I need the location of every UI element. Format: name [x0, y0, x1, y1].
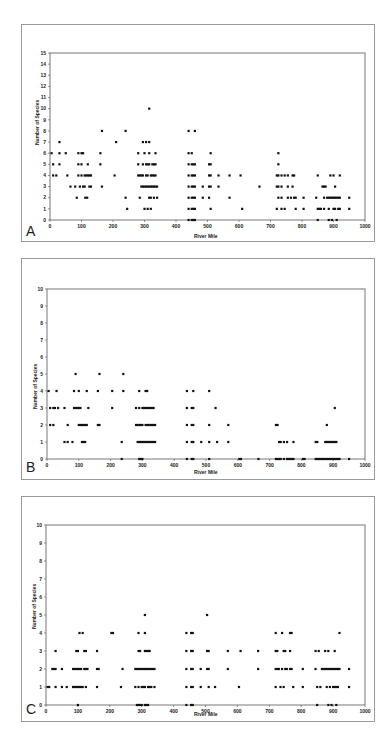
- data-point: [277, 152, 279, 154]
- data-point: [336, 219, 338, 221]
- data-point: [192, 458, 194, 460]
- data-point: [210, 163, 212, 165]
- data-point: [214, 407, 216, 409]
- x-axis-label-b: River Mile: [194, 469, 218, 475]
- data-point: [125, 130, 127, 132]
- data-point: [289, 650, 291, 652]
- x-tick-label: 1000: [359, 462, 370, 468]
- data-point: [339, 174, 341, 176]
- data-point: [58, 163, 60, 165]
- data-point: [257, 458, 259, 460]
- y-axis-label-c: Number of Species: [31, 584, 37, 629]
- data-point: [138, 390, 140, 392]
- data-point: [276, 650, 278, 652]
- data-point: [194, 208, 196, 210]
- data-point: [315, 197, 317, 199]
- data-point: [280, 441, 282, 443]
- x-tick-label: 100: [74, 708, 83, 714]
- data-point: [87, 163, 89, 165]
- data-point: [216, 441, 218, 443]
- data-point: [302, 668, 304, 670]
- data-point: [192, 632, 194, 634]
- y-tick-label: 10: [40, 105, 46, 111]
- scatter-plot-c: 0123456789100100200300400500600700800900…: [22, 497, 374, 721]
- data-point: [324, 650, 326, 652]
- data-point: [141, 424, 143, 426]
- data-point: [302, 686, 304, 688]
- data-point: [302, 208, 304, 210]
- data-point: [152, 407, 154, 409]
- panel-letter-a: A: [26, 223, 35, 239]
- x-tick-label: 700: [266, 223, 275, 229]
- data-point: [67, 441, 69, 443]
- data-point: [191, 152, 193, 154]
- data-point: [194, 186, 196, 188]
- x-tick-label: 400: [169, 708, 178, 714]
- data-point: [281, 632, 283, 634]
- data-point: [125, 197, 127, 199]
- data-point: [97, 390, 99, 392]
- data-point: [121, 668, 123, 670]
- data-point: [142, 163, 144, 165]
- data-point: [334, 407, 336, 409]
- data-point: [82, 686, 84, 688]
- x-tick-label: 200: [109, 223, 118, 229]
- data-point: [78, 632, 80, 634]
- data-point: [192, 407, 194, 409]
- data-point: [79, 186, 81, 188]
- data-point: [291, 186, 293, 188]
- data-point: [210, 174, 212, 176]
- data-point: [192, 668, 194, 670]
- data-point: [147, 208, 149, 210]
- data-point: [185, 650, 187, 652]
- data-point: [77, 152, 79, 154]
- data-point: [208, 686, 210, 688]
- y-tick-label: 7: [40, 337, 43, 343]
- y-tick-label: 0: [43, 217, 46, 223]
- data-point: [277, 197, 279, 199]
- x-tick-label: 800: [298, 223, 307, 229]
- data-point: [126, 208, 128, 210]
- y-tick-label: 6: [40, 354, 43, 360]
- data-point: [240, 458, 242, 460]
- data-point: [186, 424, 188, 426]
- data-point: [338, 458, 340, 460]
- data-point: [331, 219, 333, 221]
- x-tick-label: 400: [172, 223, 181, 229]
- data-point: [348, 208, 350, 210]
- data-point: [303, 458, 305, 460]
- data-point: [328, 219, 330, 221]
- data-point: [111, 390, 113, 392]
- data-point: [192, 390, 194, 392]
- data-point: [192, 424, 194, 426]
- data-point: [121, 441, 123, 443]
- y-tick-label: 1: [40, 439, 43, 445]
- data-point: [317, 174, 319, 176]
- data-point: [80, 174, 82, 176]
- data-point: [241, 208, 243, 210]
- data-point: [86, 668, 88, 670]
- data-point: [317, 219, 319, 221]
- data-point: [111, 407, 113, 409]
- data-point: [323, 208, 325, 210]
- data-point: [148, 108, 150, 110]
- data-point: [188, 197, 190, 199]
- y-tick-label: 7: [43, 139, 46, 145]
- data-point: [291, 632, 293, 634]
- y-tick-label: 8: [39, 558, 42, 564]
- data-point: [208, 650, 210, 652]
- data-point: [121, 458, 123, 460]
- data-point: [74, 186, 76, 188]
- data-point: [335, 704, 337, 706]
- y-tick-label: 2: [40, 422, 43, 428]
- data-point: [82, 152, 84, 154]
- data-point: [143, 152, 145, 154]
- data-point: [185, 704, 187, 706]
- y-tick-label: 0: [40, 456, 43, 462]
- data-point: [156, 186, 158, 188]
- x-axis-label-c: River Mile: [194, 711, 218, 717]
- data-point: [186, 407, 188, 409]
- data-point: [90, 174, 92, 176]
- data-point: [77, 174, 79, 176]
- data-point: [143, 208, 145, 210]
